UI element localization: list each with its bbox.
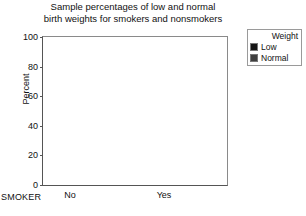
legend-label-normal: Normal xyxy=(261,53,288,63)
legend-title: Weight xyxy=(250,31,299,41)
y-tick-label-40: 40 xyxy=(2,121,38,131)
y-tick-mark-20 xyxy=(40,155,43,156)
y-tick-mark-60 xyxy=(40,96,43,97)
x-tick-label-no: No xyxy=(40,190,100,200)
legend-item-low[interactable]: Low xyxy=(250,42,299,52)
y-tick-label-80: 80 xyxy=(2,62,38,72)
legend-label-low: Low xyxy=(261,42,277,52)
y-tick-mark-0 xyxy=(40,185,43,186)
chart-title: Sample percentages of low and normal bir… xyxy=(20,1,246,24)
chart-title-line-1: Sample percentages of low and normal xyxy=(20,1,246,13)
plot-area: 100 80 60 40 20 0 xyxy=(42,36,228,186)
legend: Weight Low Normal xyxy=(247,29,302,66)
legend-item-normal[interactable]: Normal xyxy=(250,53,299,63)
y-tick-label-100: 100 xyxy=(2,32,38,42)
y-tick-mark-100 xyxy=(40,37,43,38)
y-tick-mark-40 xyxy=(40,126,43,127)
x-axis-label: SMOKER xyxy=(1,192,41,202)
x-tick-label-yes: Yes xyxy=(134,190,194,200)
y-tick-label-20: 20 xyxy=(2,150,38,160)
y-tick-label-60: 60 xyxy=(2,91,38,101)
chart-container: Sample percentages of low and normal bir… xyxy=(0,0,306,216)
y-tick-mark-80 xyxy=(40,67,43,68)
chart-title-line-2: birth weights for smokers and nonsmokers xyxy=(20,13,246,25)
y-tick-label-0: 0 xyxy=(2,180,38,190)
legend-swatch-normal xyxy=(250,54,258,62)
legend-swatch-low xyxy=(250,43,258,51)
